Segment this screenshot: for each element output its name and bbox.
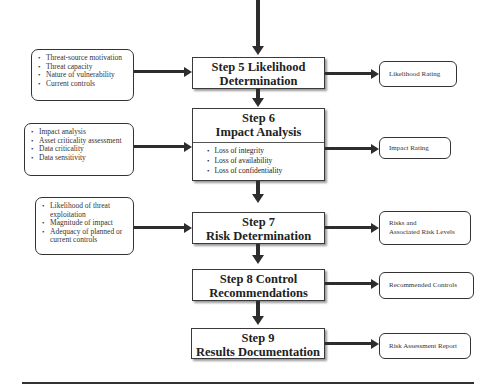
arrow-input3-to-step7-head <box>184 223 192 233</box>
step5-inputs-list: Threat-source motivation Threat capacity… <box>32 50 133 88</box>
incoming-arrow-head <box>252 46 264 55</box>
arrow-step6-to-output-head <box>371 144 379 154</box>
arrow-step7-to-step8-head <box>252 255 264 264</box>
arrow-step8-to-output-head <box>371 279 379 289</box>
step9-title-line1: Step 9 <box>192 329 324 345</box>
step7-title-line2: Risk Determination <box>193 229 324 243</box>
arrow-step8-to-step9-head <box>252 316 264 325</box>
step8-title-line1: Step 8 Control <box>193 270 324 286</box>
step6-items-list: Loss of integrity Loss of availability L… <box>193 143 324 176</box>
input-item: Likelihood of threat exploitation <box>42 202 129 219</box>
arrow-step9-to-output-head <box>371 339 379 349</box>
step8-control-recommendations-box: Step 8 Control Recommendations <box>192 269 325 301</box>
arrow-input2-to-step6-head <box>184 142 192 152</box>
output-impact-rating-box: Impact Rating <box>379 137 451 159</box>
arrow-step9-to-output-shaft <box>325 342 371 345</box>
arrow-step5-to-output-shaft <box>325 72 371 75</box>
step6-impact-analysis-box: Step 6 Impact Analysis Loss of integrity… <box>192 108 325 181</box>
step6-item: Loss of confidentiality <box>207 166 324 176</box>
arrow-step6-to-step7-shaft <box>256 181 260 195</box>
output-label: Impact Rating <box>389 144 429 153</box>
output-likelihood-rating-box: Likelihood Rating <box>379 61 457 87</box>
step5-title-line2: Determination <box>193 74 324 88</box>
arrow-step6-to-step7-head <box>252 194 264 203</box>
arrow-step5-to-output-head <box>371 69 379 79</box>
bottom-divider-line <box>22 382 474 384</box>
input-item: Data sensitivity <box>31 154 133 163</box>
arrow-step6-to-output-shaft <box>325 147 371 150</box>
output-label-line1: Risks and <box>389 219 455 228</box>
output-risks-box: Risks and Associated Risk Levels <box>379 211 471 245</box>
arrow-step7-to-output-head <box>371 223 379 233</box>
arrow-step8-to-output-shaft <box>325 282 371 285</box>
arrow-step8-to-step9-shaft <box>256 301 260 317</box>
output-label: Likelihood Rating <box>389 70 440 79</box>
step9-title-line2: Results Documentation <box>192 345 324 359</box>
step7-title-line1: Step 7 <box>193 213 324 229</box>
output-risk-assessment-report-box: Risk Assessment Report <box>379 333 471 359</box>
arrow-input1-to-step5-shaft <box>134 70 184 73</box>
arrow-input1-to-step5-head <box>184 67 192 77</box>
output-label: Risk Assessment Report <box>389 342 457 351</box>
input-item: Adequacy of planned or current controls <box>42 228 129 245</box>
step9-results-documentation-box: Step 9 Results Documentation <box>191 328 325 359</box>
step6-inputs-list: Impact analysis Asset criticality assess… <box>25 124 133 162</box>
step5-likelihood-determination-box: Step 5 Likelihood Determination <box>192 57 325 89</box>
step6-title-line1: Step 6 <box>193 109 324 125</box>
input-item: Current controls <box>38 80 133 89</box>
step7-risk-determination-box: Step 7 Risk Determination <box>192 212 325 244</box>
arrow-step5-to-step6-head <box>252 98 264 107</box>
arrow-step7-to-output-shaft <box>325 226 371 229</box>
output-label-line2: Associated Risk Levels <box>389 228 455 237</box>
step7-inputs-box: Likelihood of threat exploitation Magnit… <box>35 197 134 255</box>
arrow-input2-to-step6-shaft <box>134 145 184 148</box>
step7-inputs-list: Likelihood of threat exploitation Magnit… <box>36 198 133 245</box>
step5-title-line1: Step 5 Likelihood <box>193 58 324 74</box>
output-label: Recommended Controls <box>389 281 457 290</box>
step5-inputs-box: Threat-source motivation Threat capacity… <box>31 49 134 101</box>
step6-title-line2: Impact Analysis <box>193 125 324 142</box>
output-recommended-controls-box: Recommended Controls <box>379 272 474 299</box>
step8-title-line2: Recommendations <box>193 286 324 300</box>
step6-item: Loss of availability <box>207 156 324 166</box>
incoming-arrow-shaft <box>256 0 260 48</box>
step6-inputs-box: Impact analysis Asset criticality assess… <box>24 123 134 176</box>
arrow-input3-to-step7-shaft <box>134 226 184 229</box>
step6-item: Loss of integrity <box>207 146 324 156</box>
